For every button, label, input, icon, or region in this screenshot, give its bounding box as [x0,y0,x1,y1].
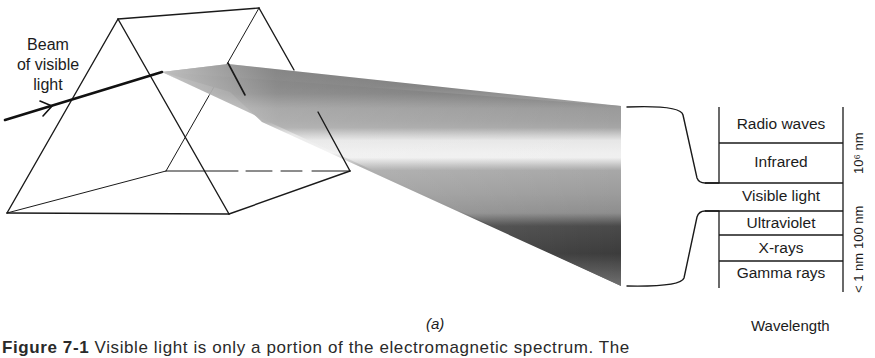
band-label-gamma-rays: Gamma rays [719,264,843,282]
wavelength-axis-label: Wavelength [751,317,830,334]
figure-caption: Figure 7-1 Visible light is only a porti… [2,338,630,358]
scale-label-top: 10⁶ nm [851,133,866,174]
spectrum-brackets [627,107,719,286]
figure-caption-text: Visible light is only a portion of the e… [95,338,630,357]
band-label-ultraviolet: Ultraviolet [719,214,843,232]
figure-number: Figure 7-1 [2,338,89,357]
band-label-infrared: Infrared [719,153,843,171]
scale-label-middle: 100 nm [851,206,866,249]
band-label-radio-waves: Radio waves [719,115,843,133]
beam-label-line-1: Beam [0,35,102,55]
beam-label-line-2: of visible [0,55,102,75]
spectrum-fan [162,64,621,286]
band-label-visible-light: Visible light [719,187,843,205]
band-label-x-rays: X-rays [719,239,843,257]
beam-label-line-3: light [0,75,102,95]
panel-label: (a) [426,315,444,332]
scale-label-bottom: < 1 nm [851,253,866,293]
beam-label: Beam of visible light [0,35,102,95]
